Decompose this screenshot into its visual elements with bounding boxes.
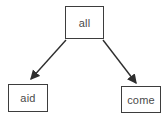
node-come: come (121, 86, 161, 113)
node-aid: aid (8, 84, 48, 112)
node-all-label: all (79, 17, 91, 29)
node-all: all (65, 6, 104, 39)
tree-diagram: all aid come (0, 0, 168, 120)
edge-all-to-aid (31, 40, 66, 79)
node-come-label: come (127, 94, 155, 106)
node-aid-label: aid (20, 92, 35, 104)
edge-all-to-come (103, 40, 136, 83)
